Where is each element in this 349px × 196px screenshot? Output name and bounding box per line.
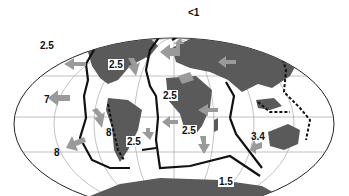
velocity-label: 7 [44, 94, 50, 105]
velocity-label: 2.5 [40, 40, 54, 51]
velocity-label: 8 [106, 127, 112, 138]
velocity-label: 3.4 [251, 131, 265, 142]
velocity-label: 2.5 [108, 59, 124, 70]
velocity-label: <1 [188, 7, 199, 18]
velocity-label: 2.5 [162, 90, 178, 101]
velocity-label: 1.5 [218, 176, 234, 187]
velocity-label: 8 [54, 147, 60, 158]
velocity-label: 2.5 [181, 125, 197, 136]
velocity-label: 2.5 [126, 136, 142, 147]
